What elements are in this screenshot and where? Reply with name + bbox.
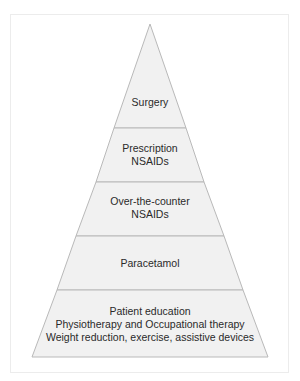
label-line: Patient education <box>0 305 300 318</box>
label-line: Surgery <box>0 96 300 109</box>
label-line: NSAIDs <box>0 208 300 221</box>
label-line: Paracetamol <box>0 257 300 270</box>
label-prescription-nsaids: Prescription NSAIDs <box>0 142 300 168</box>
label-surgery: Surgery <box>0 96 300 109</box>
label-line: NSAIDs <box>0 155 300 168</box>
label-line: Over-the-counter <box>0 195 300 208</box>
label-paracetamol: Paracetamol <box>0 257 300 270</box>
layer-surgery <box>114 24 186 128</box>
label-line: Physiotherapy and Occupational therapy <box>0 318 300 331</box>
label-otc-nsaids: Over-the-counter NSAIDs <box>0 195 300 221</box>
label-line: Prescription <box>0 142 300 155</box>
label-foundation: Patient education Physiotherapy and Occu… <box>0 305 300 344</box>
label-line: Weight reduction, exercise, assistive de… <box>0 331 300 344</box>
